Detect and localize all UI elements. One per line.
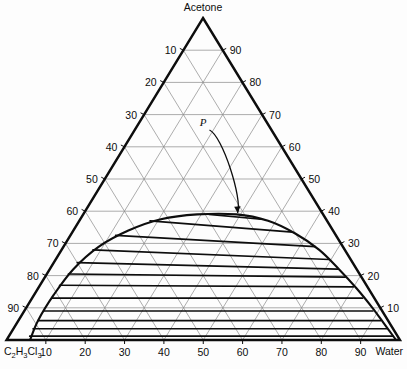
grid-line-water-50 — [203, 179, 301, 340]
grid-line-trichloro-70 — [65, 243, 124, 340]
grid-line-trichloro-10 — [183, 50, 360, 340]
plait-point-arrow-head — [234, 206, 240, 213]
tick-label-bottom-80: 80 — [315, 346, 327, 358]
tick-label-right-80: 80 — [249, 76, 261, 88]
tie-line-7 — [60, 285, 354, 287]
tick-label-left-10: 10 — [165, 44, 177, 56]
formula-h: H — [16, 345, 24, 357]
tick-label-left-90: 90 — [8, 302, 20, 314]
acetone-vertex-label: Acetone — [184, 1, 223, 13]
axis-ticks — [23, 48, 384, 344]
tick-label-bottom-40: 40 — [158, 346, 170, 358]
tick-label-left-70: 70 — [47, 237, 59, 249]
tick-label-left-40: 40 — [106, 141, 118, 153]
grid-line-trichloro-30 — [144, 115, 282, 340]
tick-label-left-20: 20 — [145, 76, 157, 88]
tick-label-right-30: 30 — [348, 237, 360, 249]
tick-label-bottom-60: 60 — [237, 346, 249, 358]
tick-label-left-60: 60 — [66, 205, 78, 217]
tick-label-left-80: 80 — [27, 270, 39, 282]
tick-label-right-70: 70 — [269, 109, 281, 121]
tick-label-bottom-10: 10 — [40, 346, 52, 358]
tick-label-bottom-70: 70 — [276, 346, 288, 358]
plait-point-annotation: P — [199, 116, 207, 128]
ternary-diagram-root: 1020304050607080901020304050607080909080… — [0, 0, 407, 369]
tick-label-left-50: 50 — [86, 173, 98, 185]
formula-cl-sub: 3 — [37, 351, 41, 360]
grid-lines — [26, 50, 380, 340]
formula-cl: Cl — [28, 345, 38, 357]
tick-label-bottom-90: 90 — [355, 346, 367, 358]
tick-label-bottom-30: 30 — [119, 346, 131, 358]
grid-line-water-10 — [46, 50, 223, 340]
grid-line-trichloro-50 — [105, 179, 204, 340]
water-vertex-label: Water — [375, 345, 403, 357]
bottom-left-vertex-label: C2H3Cl3 — [4, 345, 42, 360]
tick-label-left-30: 30 — [125, 109, 137, 121]
tick-label-bottom-50: 50 — [197, 346, 209, 358]
tick-label-right-40: 40 — [328, 205, 340, 217]
svg-text:C2H3Cl3: C2H3Cl3 — [4, 345, 42, 360]
tick-label-right-90: 90 — [230, 44, 242, 56]
tick-label-right-60: 60 — [289, 141, 301, 153]
tick-label-right-20: 20 — [368, 270, 380, 282]
tick-label-right-50: 50 — [309, 173, 321, 185]
ternary-diagram-svg: 1020304050607080901020304050607080909080… — [0, 0, 407, 369]
tick-label-bottom-20: 20 — [79, 346, 91, 358]
tie-line-4 — [93, 250, 329, 260]
tick-label-right-10: 10 — [387, 302, 399, 314]
plait-point-arrow-curve — [210, 130, 239, 213]
